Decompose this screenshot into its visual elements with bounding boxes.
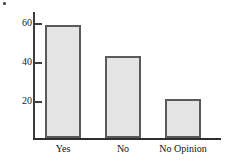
x-axis-label-no-opinion: No Opinion: [151, 143, 215, 154]
y-axis-tick-label-40: 40: [6, 57, 32, 67]
y-axis-tick-label-20: 20: [6, 96, 32, 106]
y-axis-tick-20: [35, 101, 42, 103]
y-axis-tick-label-60: 60: [6, 18, 32, 28]
figure-corner-mark-icon: [3, 2, 6, 5]
bar-no: [105, 56, 141, 138]
x-axis-label-no: No: [103, 143, 143, 154]
y-axis-tick-40: [35, 62, 42, 64]
bar-no-opinion: [165, 99, 201, 138]
y-axis-line: [33, 12, 35, 140]
bar-chart: 60 40 20 Yes No No Opinion: [0, 0, 225, 162]
bar-yes: [45, 25, 81, 138]
x-axis-label-yes: Yes: [43, 143, 83, 154]
y-axis-tick-60: [35, 23, 42, 25]
x-axis-line: [33, 138, 221, 140]
